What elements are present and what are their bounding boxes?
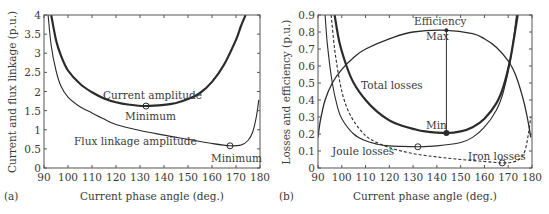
curve-efficiency bbox=[318, 30, 531, 137]
x-tick-label: 120 bbox=[379, 171, 399, 183]
label-joule-losses: Joule losses bbox=[331, 145, 394, 157]
panel-a-ylabel: Current and flux linkage (p.u.) bbox=[6, 11, 18, 173]
x-tick-label: 170 bbox=[226, 171, 246, 183]
y-tick-label: 1.5 bbox=[24, 105, 41, 117]
label-flux-linkage-amplitude: Flux linkage amplitude bbox=[74, 135, 197, 147]
y-tick-label: 0.6 bbox=[298, 60, 315, 72]
curve-flux-linkage-amplitude bbox=[48, 15, 259, 146]
y-tick-label: 3.5 bbox=[24, 28, 41, 40]
y-tick-label: 0.4 bbox=[298, 94, 315, 106]
x-tick-label: 110 bbox=[82, 171, 102, 183]
y-tick-label: 0.9 bbox=[298, 9, 315, 21]
y-tick-label: 0 bbox=[308, 162, 315, 174]
x-tick-label: 100 bbox=[58, 171, 78, 183]
x-tick-label: 130 bbox=[130, 171, 150, 183]
panel-b-chart: 9010011012013014015016017018000.10.20.30… bbox=[279, 9, 542, 202]
panel-b-label: (b) bbox=[279, 190, 294, 202]
x-tick-label: 160 bbox=[474, 171, 494, 183]
y-tick-label: 0.1 bbox=[298, 145, 315, 157]
panel-a-chart: 9010011012013014015016017018000.511.522.… bbox=[4, 9, 270, 202]
figure: 9010011012013014015016017018000.511.522.… bbox=[0, 0, 549, 214]
y-tick-label: 0.8 bbox=[298, 26, 315, 38]
panel-a-label: (a) bbox=[4, 190, 18, 202]
label-efficiency: Efficiency bbox=[414, 15, 467, 27]
y-tick-label: 0.5 bbox=[24, 143, 41, 155]
label-max: Max bbox=[426, 30, 449, 42]
label-iron-losses: Iron losses bbox=[468, 150, 526, 162]
panel-a-curves bbox=[48, 15, 259, 149]
panel-b-curves bbox=[318, 15, 531, 166]
x-tick-label: 160 bbox=[202, 171, 222, 183]
y-tick-label: 0.2 bbox=[298, 128, 315, 140]
y-tick-label: 4 bbox=[34, 9, 41, 21]
label-current-minimum: Minimum bbox=[125, 110, 176, 122]
x-tick-label: 130 bbox=[403, 171, 423, 183]
label-total-losses: Total losses bbox=[361, 79, 423, 91]
label-flux-minimum: Minimum bbox=[211, 152, 262, 164]
x-tick-label: 100 bbox=[332, 171, 352, 183]
y-tick-label: 0 bbox=[34, 162, 41, 174]
x-tick-label: 150 bbox=[451, 171, 471, 183]
y-tick-label: 1 bbox=[34, 124, 41, 136]
y-tick-label: 0.5 bbox=[298, 77, 315, 89]
x-tick-label: 150 bbox=[178, 171, 198, 183]
label-min: Min bbox=[426, 119, 447, 131]
label-current-amplitude: Current amplitude bbox=[103, 89, 202, 101]
x-tick-label: 170 bbox=[498, 171, 518, 183]
y-tick-label: 2.5 bbox=[24, 66, 41, 78]
x-tick-label: 140 bbox=[154, 171, 174, 183]
y-tick-label: 0.3 bbox=[298, 111, 315, 123]
x-tick-label: 140 bbox=[427, 171, 447, 183]
panel-b-ylabel: Losses and efficiency (p.u.) bbox=[280, 20, 292, 165]
x-tick-label: 110 bbox=[356, 171, 376, 183]
y-tick-label: 0.7 bbox=[298, 43, 315, 55]
y-tick-label: 3 bbox=[34, 47, 41, 59]
x-tick-label: 180 bbox=[522, 171, 542, 183]
y-tick-label: 2 bbox=[34, 86, 41, 98]
x-tick-label: 120 bbox=[106, 171, 126, 183]
x-tick-label: 180 bbox=[250, 171, 270, 183]
panel-a-xlabel: Current phase angle (deg.) bbox=[80, 190, 224, 202]
panel-b-xlabel: Current phase angle (deg.) bbox=[353, 190, 497, 202]
